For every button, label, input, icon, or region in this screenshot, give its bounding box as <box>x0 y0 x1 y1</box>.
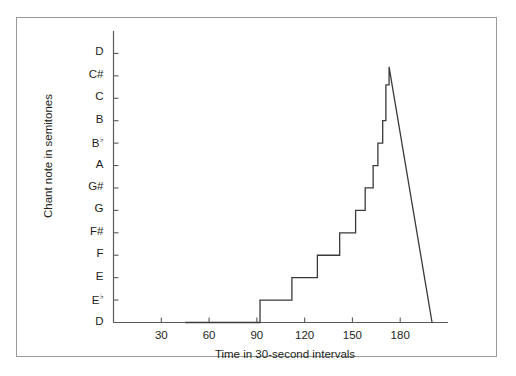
y-tick-label: B <box>74 113 104 125</box>
x-tick-label: 150 <box>332 329 372 341</box>
figure-root: Chant note in semitones Time in 30-secon… <box>0 0 516 376</box>
y-tick-label: F <box>74 247 104 259</box>
x-tick-label: 120 <box>285 329 325 341</box>
chant-pitch-line <box>185 67 432 323</box>
x-tick-label: 30 <box>141 329 181 341</box>
y-axis-title: Chant note in semitones <box>42 61 54 251</box>
y-tick-label: G# <box>74 180 104 192</box>
x-tick-label: 60 <box>189 329 229 341</box>
y-tick-label: A <box>74 158 104 170</box>
y-tick-label: C# <box>74 68 104 80</box>
y-tick-label: F# <box>74 225 104 237</box>
x-tick-label: 180 <box>380 329 420 341</box>
y-tick-label: E♭ <box>74 292 104 306</box>
y-tick-label: G <box>74 202 104 214</box>
x-tick-label: 90 <box>237 329 277 341</box>
y-tick-label: C <box>74 90 104 102</box>
y-tick-label: E <box>74 270 104 282</box>
y-tick-label: D <box>74 315 104 327</box>
y-tick-label: B♭ <box>74 135 104 149</box>
x-axis-title: Time in 30-second intervals <box>160 348 410 360</box>
y-tick-label: D <box>74 45 104 57</box>
